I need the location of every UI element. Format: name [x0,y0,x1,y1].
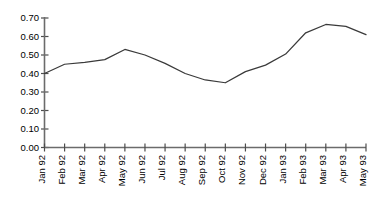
x-axis-tick-label: Oct 92 [216,155,227,183]
line-chart: 0.700.600.500.400.300.200.100.00 Jan 92F… [0,0,388,198]
y-axis-tick-label: 0.60 [21,31,40,42]
chart-canvas: 0.700.600.500.400.300.200.100.00 Jan 92F… [0,0,388,198]
y-axis-tick-label: 0.20 [21,105,40,116]
x-axis-tick-label: Aug 92 [176,155,187,185]
x-axis-tick-label: Apr 93 [337,155,348,183]
x-axis-tick-label: Feb 93 [297,155,308,185]
y-axis-tick-label: 0.00 [21,142,40,153]
x-axis-tick-label: Jul 92 [156,155,167,180]
y-axis-tick-label: 0.40 [21,68,40,79]
x-axis-tick-label: Jan 92 [36,155,47,184]
x-axis-tick-label: Feb 92 [56,155,67,185]
y-axis-tick-label: 0.10 [21,123,40,134]
x-axis-tick-label: May 92 [116,155,127,186]
x-axis-tick-label: Jun 92 [136,155,147,184]
x-axis-tick-labels: Jan 92Feb 92Mar 92Apr 92May 92Jun 92Jul … [36,155,369,186]
x-axis-tick-label: Nov 92 [236,155,247,185]
data-series-line [45,24,367,82]
x-axis-tick-label: Mar 93 [317,155,328,185]
y-axis-tick-label: 0.30 [21,86,40,97]
x-axis-tick-label: Apr 92 [96,155,107,183]
y-axis-tick-label: 0.70 [21,12,40,23]
x-axis-tick-label: Dec 92 [257,155,268,185]
x-axis-tick-label: Sep 92 [196,155,207,185]
x-axis-tick-label: Jan 93 [277,155,288,184]
x-axis-tick-label: May 93 [357,155,368,186]
x-axis-tick-label: Mar 92 [76,155,87,185]
y-axis-tick-label: 0.50 [21,49,40,60]
y-axis-tick-labels: 0.700.600.500.400.300.200.100.00 [21,12,40,153]
